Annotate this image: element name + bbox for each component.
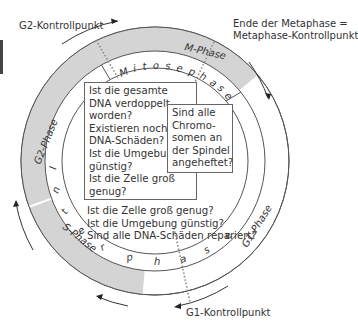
g2-checkpoint-label: G2-Kontrollpunkt xyxy=(19,20,103,32)
svg-text:o: o xyxy=(153,60,160,71)
metaphase-checkpoint-questions-box: Sind alle Chromo- somen an der Spindel a… xyxy=(167,104,233,173)
g1-checkpoint-label: G1-Kontrollpunkt xyxy=(186,307,270,319)
svg-text:s: s xyxy=(165,60,171,71)
arrow-head-top xyxy=(111,19,118,25)
arrow-arc-bottom-left xyxy=(98,297,128,306)
svg-text:h: h xyxy=(154,256,160,267)
arrow-head-left xyxy=(13,200,19,207)
metaphase-checkpoint-label-line1: Ende der Metaphase = xyxy=(233,18,348,30)
metaphase-checkpoint-label-line2: Metaphase-Kontrollpunkt xyxy=(233,30,358,42)
g1-checkpoint-questions: Ist die Zelle groß genug? Ist die Umgebu… xyxy=(87,205,257,243)
arrow-head-bottom xyxy=(174,303,181,309)
